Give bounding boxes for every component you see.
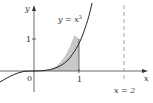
x-axis-arrow-icon (142, 69, 148, 73)
y-axis-arrow-icon (32, 5, 36, 11)
y-axis-label: y (24, 4, 30, 13)
y-tick-1-label: 1 (26, 35, 31, 44)
origin-label: 0 (27, 74, 32, 83)
curve-label: y = x3 (57, 14, 82, 24)
shaded-region (34, 35, 79, 71)
vline-label: x = 2 (114, 86, 135, 95)
diagram-canvas: y x 0 1 1 y = x3 x = 2 (0, 0, 153, 103)
x-tick-1-label: 1 (77, 75, 82, 84)
x-axis-label: x (144, 74, 149, 83)
